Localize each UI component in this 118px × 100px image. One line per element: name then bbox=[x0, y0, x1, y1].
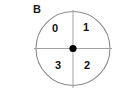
dial-figure: B 0 1 2 3 bbox=[0, 0, 118, 100]
quadrant-label-lower-right: 2 bbox=[81, 60, 93, 71]
center-dot bbox=[69, 45, 76, 52]
dial-diagram bbox=[0, 0, 118, 100]
quadrant-label-upper-right: 1 bbox=[80, 22, 92, 33]
quadrant-label-upper-left: 0 bbox=[49, 23, 61, 34]
quadrant-label-lower-left: 3 bbox=[52, 60, 64, 71]
